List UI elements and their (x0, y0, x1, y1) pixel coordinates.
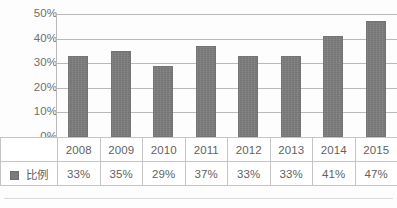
value-cell-2011: 37% (185, 162, 228, 186)
value-cell-2010: 29% (143, 162, 186, 186)
category-cell-2009: 2009 (100, 138, 143, 162)
y-tick-label-40: 40% (5, 33, 57, 45)
bar-slot-2012 (227, 14, 270, 137)
bar-slot-2008 (57, 14, 100, 137)
chart-data-table: 2008 2009 2010 2011 2012 2013 2014 2015 … (0, 137, 397, 186)
bar-slot-2010 (142, 14, 185, 137)
value-cell-2008: 33% (58, 162, 101, 186)
value-cell-2013: 33% (270, 162, 313, 186)
y-axis-tick-labels: 50% 40% 30% 20% 10% 0% (0, 0, 57, 145)
legend-cell: 比例 (1, 162, 58, 186)
plot-area (57, 14, 397, 137)
y-tick-label-30: 30% (5, 57, 57, 69)
bar-2009 (111, 51, 131, 137)
bar-2013 (281, 56, 301, 137)
value-cell-2009: 35% (100, 162, 143, 186)
legend-series-label: 比例 (26, 166, 48, 182)
plot-wrapper: 50% 40% 30% 20% 10% 0% (0, 0, 397, 145)
bar-slot-2014 (312, 14, 355, 137)
table-row-categories: 2008 2009 2010 2011 2012 2013 2014 2015 (1, 138, 397, 162)
value-cell-2012: 33% (228, 162, 271, 186)
table-corner-blank (1, 138, 58, 162)
bar-slot-2013 (270, 14, 313, 137)
category-cell-2015: 2015 (355, 138, 397, 162)
category-cell-2008: 2008 (58, 138, 101, 162)
y-tick-label-50: 50% (5, 8, 57, 20)
category-cell-2013: 2013 (270, 138, 313, 162)
y-tick-label-20: 20% (5, 82, 57, 94)
bar-2015 (366, 21, 386, 137)
bar-2008 (68, 56, 88, 137)
bar-2012 (238, 56, 258, 137)
bar-chart-figure: 50% 40% 30% 20% 10% 0% (0, 0, 397, 208)
scan-artifact-line (4, 198, 393, 199)
bar-2014 (323, 36, 343, 137)
bars-layer (57, 14, 397, 137)
bar-slot-2009 (100, 14, 143, 137)
category-cell-2014: 2014 (313, 138, 356, 162)
bar-2011 (196, 46, 216, 137)
table-row-values: 比例 33% 35% 29% 37% 33% 33% 41% 47% (1, 162, 397, 186)
bar-slot-2015 (355, 14, 397, 137)
category-cell-2010: 2010 (143, 138, 186, 162)
category-cell-2012: 2012 (228, 138, 271, 162)
legend-swatch-icon (10, 171, 19, 180)
bar-slot-2011 (185, 14, 228, 137)
value-cell-2015: 47% (355, 162, 397, 186)
bar-2010 (153, 66, 173, 137)
y-tick-label-10: 10% (5, 107, 57, 119)
category-cell-2011: 2011 (185, 138, 228, 162)
value-cell-2014: 41% (313, 162, 356, 186)
